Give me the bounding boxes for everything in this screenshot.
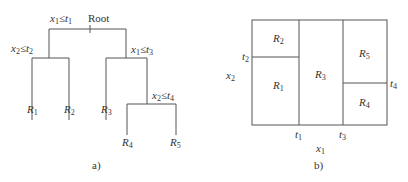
tick-t1: t1 <box>295 129 302 142</box>
caption-b: b) <box>314 160 323 171</box>
root-label: Root <box>88 13 109 24</box>
diagram-lines <box>0 0 408 182</box>
left-split-label: x2≤t2 <box>11 43 33 56</box>
caption-a: a) <box>92 160 101 171</box>
right-split-label: x1≤t3 <box>131 44 153 57</box>
y-axis-label: x2 <box>226 70 235 83</box>
leaf-r3: R3 <box>101 104 112 117</box>
region-r5: R5 <box>359 48 370 61</box>
right-right-split-label: x2≤t4 <box>152 90 174 103</box>
leaf-r2: R2 <box>64 104 75 117</box>
region-r3: R3 <box>315 69 326 82</box>
x-axis-label: x1 <box>316 143 325 156</box>
root-split-label: x1≤t1 <box>50 13 72 26</box>
region-r4: R4 <box>359 97 370 110</box>
tick-t4: t4 <box>390 78 397 91</box>
region-r2: R2 <box>273 33 284 46</box>
tick-t3: t3 <box>339 129 346 142</box>
region-r1: R1 <box>273 80 284 93</box>
leaf-r5: R5 <box>170 137 181 150</box>
leaf-r4: R4 <box>122 137 133 150</box>
leaf-r1: R1 <box>27 104 38 117</box>
tick-t2: t2 <box>242 51 249 64</box>
